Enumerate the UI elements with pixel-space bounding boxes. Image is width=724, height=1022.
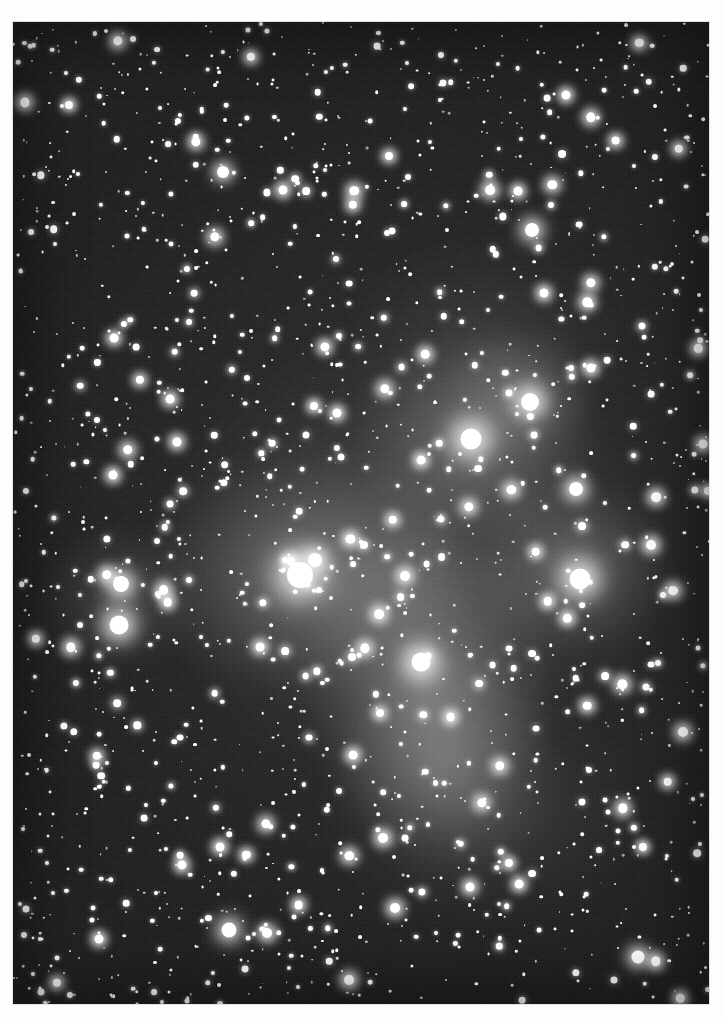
star-field xyxy=(217,209,219,211)
star-field xyxy=(376,812,380,816)
star-field xyxy=(210,31,212,33)
star-field xyxy=(552,93,555,96)
star-cluster-member-halo xyxy=(267,331,283,347)
star-field xyxy=(491,75,493,77)
star-field xyxy=(404,266,407,269)
star-field xyxy=(667,959,671,963)
star-field xyxy=(336,957,339,960)
star-field xyxy=(293,697,297,701)
star-field xyxy=(130,36,136,42)
star-field xyxy=(268,930,271,933)
star-field xyxy=(533,373,537,377)
star-field xyxy=(416,69,419,72)
star-field xyxy=(238,350,242,354)
star-field xyxy=(316,738,318,740)
star-cluster-member-halo xyxy=(248,635,272,659)
star-field xyxy=(663,943,665,945)
star-field xyxy=(113,469,115,471)
star-cluster-member-halo xyxy=(650,655,666,671)
star-field xyxy=(129,343,131,345)
star-field xyxy=(571,930,574,933)
starfield-layer xyxy=(13,22,709,1004)
star-cluster-member-halo xyxy=(166,343,184,361)
star-cluster-member-halo xyxy=(276,552,293,569)
star-field xyxy=(693,821,696,824)
star-field xyxy=(289,953,294,958)
star-field xyxy=(286,981,288,983)
star-field xyxy=(140,511,142,513)
star-field xyxy=(588,303,593,308)
star-field xyxy=(478,457,483,462)
star-field xyxy=(141,201,145,205)
star-field xyxy=(615,829,620,834)
star-field xyxy=(483,78,485,80)
star-field xyxy=(431,146,434,149)
star-cluster-member xyxy=(407,825,412,830)
star-field xyxy=(204,327,206,329)
star-cluster-member-halo xyxy=(490,860,505,875)
star-field xyxy=(696,640,698,642)
star-field xyxy=(451,640,454,643)
star-cluster-member-halo xyxy=(636,677,655,696)
star-field xyxy=(205,915,211,921)
star-field xyxy=(439,877,442,880)
star-field xyxy=(223,954,225,956)
star-field xyxy=(297,889,301,893)
star-field xyxy=(467,524,471,528)
star-field xyxy=(370,316,374,320)
star-field xyxy=(35,220,37,222)
star-field xyxy=(24,579,28,583)
star-field xyxy=(211,970,215,974)
star-field xyxy=(687,906,690,909)
star-field xyxy=(684,449,686,451)
star-field xyxy=(121,91,125,95)
star-field xyxy=(106,95,108,97)
star-field xyxy=(136,376,144,384)
star-field xyxy=(330,66,334,70)
star-field xyxy=(396,263,398,265)
star-field xyxy=(268,439,271,442)
star-field xyxy=(49,965,52,968)
star-field xyxy=(611,977,618,984)
star-cluster-member-halo xyxy=(270,178,295,203)
star-field xyxy=(213,768,216,771)
star-field xyxy=(497,936,501,940)
star-field xyxy=(255,400,259,404)
star-field xyxy=(627,58,629,60)
star-field xyxy=(314,946,317,949)
star-field xyxy=(332,535,334,537)
star-field xyxy=(178,113,182,117)
star-field xyxy=(156,561,160,565)
star-field xyxy=(589,207,591,209)
star-field xyxy=(329,297,331,299)
star-field xyxy=(264,189,271,196)
star-field xyxy=(628,796,631,799)
star-field xyxy=(139,53,142,56)
star-field xyxy=(56,333,58,335)
star-field xyxy=(318,823,320,825)
star-field xyxy=(589,603,591,605)
star-field xyxy=(123,900,130,907)
star-cluster-member-halo xyxy=(490,938,508,956)
star-field xyxy=(272,115,276,119)
star-field xyxy=(152,61,156,65)
star-field xyxy=(451,266,453,268)
star-field xyxy=(632,810,635,813)
astrophotograph xyxy=(13,22,709,1004)
star-field xyxy=(442,540,445,543)
star-field xyxy=(473,291,475,293)
star-field xyxy=(411,588,413,590)
star-field xyxy=(389,48,391,50)
print-page xyxy=(0,0,724,1022)
star-cluster-member-halo xyxy=(116,315,133,332)
star-field xyxy=(487,501,489,503)
star-field xyxy=(115,398,118,401)
star-cluster-member-halo xyxy=(185,284,204,303)
star-field xyxy=(137,889,139,891)
star-field xyxy=(455,896,458,899)
star-field xyxy=(44,768,49,773)
star-field xyxy=(633,64,635,66)
star-field xyxy=(582,875,584,877)
star-field xyxy=(55,597,58,600)
star-field xyxy=(156,389,161,394)
